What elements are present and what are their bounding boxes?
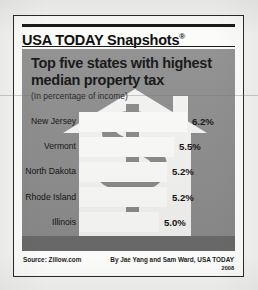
byline-credit: By Jae Yang and Sam Ward, USA TODAY <box>110 256 234 263</box>
source-credit: Source: Zillow.com <box>23 256 81 263</box>
table-row: New Jersey 6.2% <box>22 109 235 134</box>
bar-category-label: New Jersey <box>22 109 76 134</box>
table-row: Vermont 5.5% <box>22 134 235 159</box>
snapshot-page: USA TODAY Snapshots® Top five states wit… <box>0 0 258 290</box>
chart-panel: Top five states with highest median prop… <box>22 49 235 251</box>
chart-headline: Top five states with highest median prop… <box>31 55 227 88</box>
bar-value-label: 5.2% <box>172 159 194 184</box>
registered-mark-icon: ® <box>179 32 185 41</box>
masthead-rule-top <box>22 24 235 27</box>
bar-0 <box>79 112 187 132</box>
table-row: North Dakota 5.2% <box>22 159 235 184</box>
bar-value-label: 5.2% <box>172 185 194 210</box>
bar-rows: New Jersey 6.2% Vermont 5.5% North Dakot… <box>22 109 235 235</box>
bar-category-label: Vermont <box>22 134 76 159</box>
year-credit: 2008 <box>222 265 234 271</box>
bar-4 <box>79 212 159 232</box>
bar-2 <box>79 162 167 182</box>
clipping-box: USA TODAY Snapshots® Top five states wit… <box>13 15 244 277</box>
masthead-rule-bottom <box>22 46 235 47</box>
bar-value-label: 5.0% <box>164 210 186 235</box>
panel-footer-band <box>22 236 235 251</box>
bar-category-label: Illinois <box>22 210 76 235</box>
bar-category-label: Rhode Island <box>22 185 76 210</box>
masthead-title: USA TODAY Snapshots® <box>22 28 235 45</box>
bar-value-label: 6.2% <box>192 109 214 134</box>
chart-subhead: (In percentage of income) <box>31 91 221 101</box>
bar-1 <box>79 137 174 157</box>
table-row: Illinois 5.0% <box>22 210 235 235</box>
bar-value-label: 5.5% <box>179 134 201 159</box>
bar-category-label: North Dakota <box>22 159 76 184</box>
table-row: Rhode Island 5.2% <box>22 185 235 210</box>
bar-3 <box>79 187 167 207</box>
